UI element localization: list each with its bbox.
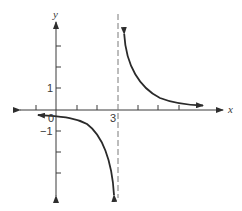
y-tick-label-1: 1	[47, 82, 53, 94]
x-axis-label: x	[227, 103, 233, 115]
y-tick-label-neg1: −1	[40, 125, 53, 137]
y-axis-label: y	[52, 8, 58, 20]
origin-label: 0	[48, 112, 54, 124]
x-tick-label-3: 3	[110, 112, 116, 124]
x-ticks	[36, 105, 179, 110]
graph-of-reciprocal-function: y x 0 3 1 −1	[0, 0, 242, 211]
curve-right-branch	[124, 34, 203, 106]
